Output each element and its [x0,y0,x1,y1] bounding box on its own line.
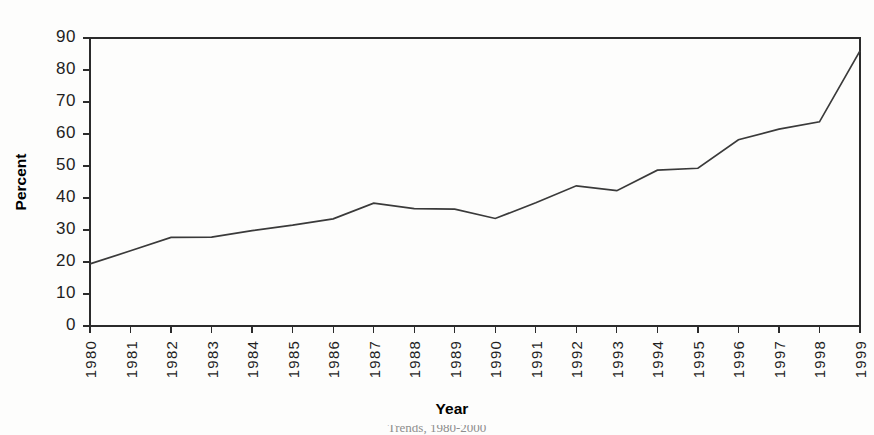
x-axis-ticks [90,326,860,333]
x-tick-label: 1990 [487,340,504,378]
x-tick-label: 1993 [609,340,626,378]
x-tick-label: 1997 [771,340,788,378]
y-tick-label: 90 [56,27,76,46]
x-tick-label: 1989 [447,340,464,378]
x-tick-label: 1982 [163,340,180,378]
x-tick-label: 1981 [123,340,140,378]
y-tick-label: 60 [56,123,76,142]
x-tick-label: 1980 [82,340,99,378]
y-tick-label: 20 [56,251,76,270]
x-tick-label: 1991 [528,340,545,378]
chart-figure: 0102030405060708090 19801981198219831984… [0,0,874,435]
data-series-line [90,51,860,264]
plot-frame [90,38,860,326]
x-tick-label: 1985 [285,340,302,378]
y-tick-label: 30 [56,219,76,238]
y-tick-label: 0 [66,315,76,334]
y-tick-label: 70 [56,91,76,110]
y-axis-labels: 0102030405060708090 [56,27,76,334]
x-tick-label: 1994 [649,340,666,378]
x-tick-label: 1984 [244,340,261,378]
x-axis-labels: 1980198119821983198419851986198719881989… [82,340,869,378]
line-chart: 0102030405060708090 19801981198219831984… [0,0,874,435]
plot-border [90,38,860,326]
x-tick-label: 1999 [852,340,869,378]
figure-caption-text: Trends, 1980-2000 [0,425,874,435]
x-tick-label: 1987 [366,340,383,378]
y-axis-ticks [83,38,90,326]
y-tick-label: 80 [56,59,76,78]
figure-caption-clipped: Trends, 1980-2000 [0,425,874,435]
x-tick-label: 1983 [204,340,221,378]
x-tick-label: 1988 [406,340,423,378]
x-tick-label: 1996 [730,340,747,378]
x-tick-label: 1986 [325,340,342,378]
y-tick-label: 50 [56,155,76,174]
y-axis-title: Percent [12,154,29,211]
y-tick-label: 10 [56,283,76,302]
x-tick-label: 1992 [568,340,585,378]
x-axis-title: Year [436,400,469,417]
x-tick-label: 1995 [690,340,707,378]
y-tick-label: 40 [56,187,76,206]
x-tick-label: 1998 [811,340,828,378]
